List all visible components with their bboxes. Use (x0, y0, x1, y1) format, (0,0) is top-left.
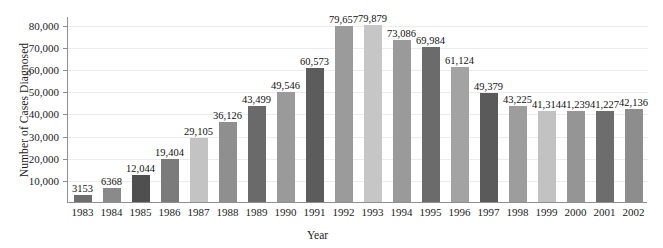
bar: 61,1241996 (451, 67, 469, 202)
x-axis-tick-label: 1997 (478, 206, 500, 218)
bar-value-label: 36,126 (213, 110, 242, 121)
gridline (68, 92, 648, 93)
y-axis-tick-mark (63, 92, 68, 93)
x-axis-tick-label: 2001 (594, 206, 616, 218)
bar-chart: Number of Cases Diagnosed Year 10,00020,… (0, 0, 663, 248)
bar: 43,4991989 (248, 106, 266, 202)
bar-value-label: 69,984 (416, 35, 445, 46)
x-axis-tick-label: 1996 (449, 206, 471, 218)
bar: 41,3141999 (538, 111, 556, 202)
bar-value-label: 49,546 (271, 80, 300, 91)
bar: 69,9841995 (422, 47, 440, 202)
x-axis-tick-label: 1986 (159, 206, 181, 218)
x-axis-tick-label: 1998 (507, 206, 529, 218)
bar-value-label: 12,044 (126, 163, 155, 174)
x-axis-tick-label: 1994 (391, 206, 413, 218)
x-axis-tick-label: 1992 (333, 206, 355, 218)
bar: 41,2392000 (567, 111, 585, 202)
x-axis-tick-label: 1991 (304, 206, 326, 218)
y-axis-tick-mark (63, 181, 68, 182)
x-axis-tick-label: 2002 (623, 206, 645, 218)
y-axis-tick-mark (63, 26, 68, 27)
x-axis-tick-label: 2000 (565, 206, 587, 218)
x-axis-tick-label: 1983 (72, 206, 94, 218)
gridline (68, 181, 648, 182)
bar: 19,4041986 (161, 159, 179, 202)
bar-value-label: 41,314 (532, 99, 561, 110)
bar-value-label: 29,105 (184, 126, 213, 137)
bar-value-label: 79,879 (358, 13, 387, 24)
x-axis-tick-label: 1999 (536, 206, 558, 218)
bar-value-label: 42,136 (619, 97, 648, 108)
x-axis-tick-label: 1993 (362, 206, 384, 218)
bar: 63681984 (103, 188, 121, 202)
bar: 42,1362002 (625, 109, 643, 202)
y-axis-tick-mark (63, 70, 68, 71)
gridline (68, 70, 648, 71)
y-axis-tick-label: 70,000 (29, 42, 59, 54)
x-axis-tick-label: 1988 (217, 206, 239, 218)
x-axis-tick-label: 1990 (275, 206, 297, 218)
gridline (68, 48, 648, 49)
y-axis-tick-mark (63, 137, 68, 138)
bar-value-label: 43,499 (242, 94, 271, 105)
y-axis-tick-label: 20,000 (29, 153, 59, 165)
plot-area: 10,00020,00030,00040,00050,00060,00070,0… (67, 17, 647, 203)
bar: 12,0441985 (132, 175, 150, 202)
gridline (68, 137, 648, 138)
bar: 73,0861994 (393, 40, 411, 202)
bar: 36,1261988 (219, 122, 237, 202)
bar-value-label: 6368 (101, 176, 122, 187)
bar: 29,1051987 (190, 138, 208, 202)
bar-value-label: 41,227 (590, 99, 619, 110)
x-axis-title-text: Year (307, 229, 328, 241)
y-axis-tick-label: 60,000 (29, 64, 59, 76)
x-axis-tick-label: 1984 (101, 206, 123, 218)
gridline (68, 114, 648, 115)
bar-value-label: 43,225 (503, 94, 532, 105)
x-axis-tick-label: 1985 (130, 206, 152, 218)
bar: 79,6571992 (335, 26, 353, 202)
y-axis-tick-label: 50,000 (29, 86, 59, 98)
bar-value-label: 41,239 (561, 99, 590, 110)
bar-value-label: 19,404 (155, 147, 184, 158)
bar: 49,5461990 (277, 92, 295, 202)
bar-value-label: 60,573 (300, 56, 329, 67)
y-axis-tick-label: 10,000 (29, 175, 59, 187)
x-axis-title: Year (0, 229, 663, 241)
bar: 60,5731991 (306, 68, 324, 202)
bar-value-label: 73,086 (387, 28, 416, 39)
y-axis-tick-label: 40,000 (29, 108, 59, 120)
bar: 49,3791997 (480, 93, 498, 202)
y-axis-tick-mark (63, 159, 68, 160)
x-axis-tick-label: 1987 (188, 206, 210, 218)
bar: 79,8791993 (364, 25, 382, 202)
y-axis-tick-label: 80,000 (29, 20, 59, 32)
gridline (68, 26, 648, 27)
x-axis-tick-label: 1995 (420, 206, 442, 218)
bar-value-label: 61,124 (445, 55, 474, 66)
y-axis-tick-mark (63, 48, 68, 49)
bar-value-label: 79,657 (329, 14, 358, 25)
x-axis-tick-label: 1989 (246, 206, 268, 218)
y-axis-tick-mark (63, 114, 68, 115)
bar: 31531983 (74, 195, 92, 202)
gridline (68, 159, 648, 160)
y-axis-tick-label: 30,000 (29, 131, 59, 143)
bar: 41,2272001 (596, 111, 614, 202)
bar: 43,2251998 (509, 106, 527, 202)
bar-value-label: 3153 (72, 183, 93, 194)
bar-value-label: 49,379 (474, 81, 503, 92)
